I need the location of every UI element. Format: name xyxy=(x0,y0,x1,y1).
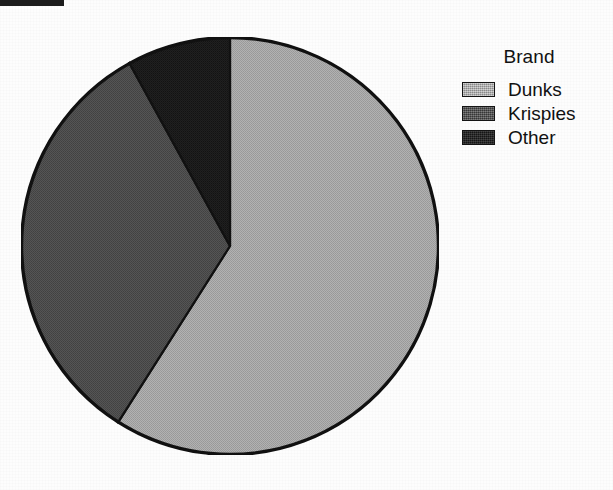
legend-item-dunks[interactable]: Dunks xyxy=(462,77,607,101)
legend-swatch-krispies xyxy=(462,106,495,121)
legend-label-krispies: Krispies xyxy=(508,104,576,123)
pie-container xyxy=(21,37,439,455)
pie-chart-figure: Brand Dunks Krispies Other xyxy=(0,0,613,490)
legend-item-krispies[interactable]: Krispies xyxy=(462,101,607,125)
legend: Brand Dunks Krispies Other xyxy=(462,46,607,149)
scan-artifact-bar xyxy=(0,0,64,6)
legend-swatch-dunks xyxy=(462,82,495,97)
legend-item-other[interactable]: Other xyxy=(462,125,607,149)
pie-svg xyxy=(21,37,439,455)
legend-title: Brand xyxy=(468,46,590,68)
legend-label-dunks: Dunks xyxy=(508,80,562,99)
legend-label-other: Other xyxy=(508,128,556,147)
legend-swatch-other xyxy=(462,130,495,145)
